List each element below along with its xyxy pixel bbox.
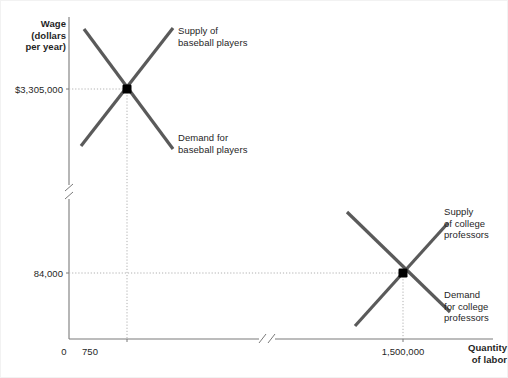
economics-labor-market-figure: Wage (dollars per year) Quantity of labo… xyxy=(0,0,508,378)
curve-label-supply-college: Supply of college professors xyxy=(444,206,508,241)
y-axis-break-icon xyxy=(65,184,73,199)
x-axis-break-icon xyxy=(259,334,275,343)
curve-label-supply-baseball: Supply of baseball players xyxy=(178,25,270,48)
baseball-equilibrium-point xyxy=(123,85,132,94)
curve-label-demand-college: Demand for college professors xyxy=(444,289,508,324)
x-tick-label-1500000: 1,500,000 xyxy=(371,346,435,358)
y-tick-label-baseball-wage: $3,305,000 xyxy=(3,84,63,96)
college-demand-curve xyxy=(347,212,450,312)
curve-label-demand-baseball: Demand for baseball players xyxy=(178,132,270,155)
college-equilibrium-point xyxy=(399,269,408,278)
chart-canvas xyxy=(1,1,508,378)
y-tick-label-college-wage: 84,000 xyxy=(19,268,63,280)
y-axis-title: Wage (dollars per year) xyxy=(4,18,66,53)
x-tick-label-750: 750 xyxy=(65,346,115,358)
x-axis-title: Quantity of labor xyxy=(437,342,507,365)
